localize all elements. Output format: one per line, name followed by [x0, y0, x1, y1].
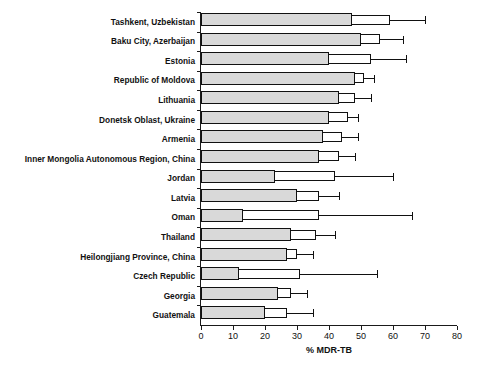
error-bar-cap — [371, 94, 372, 102]
bar — [201, 306, 265, 319]
chart-row: Heilongjiang Province, China — [201, 247, 457, 267]
x-axis-title: % MDR-TB — [201, 345, 457, 355]
category-label: Inner Mongolia Autonomous Region, China — [25, 154, 195, 164]
chart-row: Jordan — [201, 169, 457, 189]
x-axis-tick-label: 60 — [378, 331, 408, 341]
bar — [201, 13, 352, 26]
category-label: Thailand — [161, 232, 195, 242]
x-axis-tick-label: 10 — [218, 331, 248, 341]
category-label: Czech Republic — [133, 271, 195, 281]
error-bar-cap — [358, 114, 359, 122]
x-axis-tick — [361, 326, 362, 330]
bar — [201, 91, 339, 104]
x-axis-tick — [329, 326, 330, 330]
category-label: Latvia — [171, 193, 195, 203]
bar — [201, 189, 297, 202]
error-bar-cap — [374, 75, 375, 83]
chart-row: Tashkent, Uzbekistan — [201, 12, 457, 32]
chart-row: Baku City, Azerbaijan — [201, 32, 457, 52]
x-axis-tick — [457, 326, 458, 330]
bar — [201, 209, 243, 222]
bar — [201, 33, 361, 46]
error-bar-cap — [406, 55, 407, 63]
chart-row: Republic of Moldova — [201, 71, 457, 91]
error-bar-cap — [313, 309, 314, 317]
chart-row: Guatemala — [201, 305, 457, 325]
bar — [201, 150, 319, 163]
category-label: Jordan — [167, 173, 195, 183]
category-label: Armenia — [162, 134, 195, 144]
bar — [201, 130, 323, 143]
error-bar-cap — [313, 251, 314, 259]
chart-row: Latvia — [201, 188, 457, 208]
bar — [201, 287, 278, 300]
x-axis-tick-label: 50 — [346, 331, 376, 341]
chart-row: Donetsk Oblast, Ukraine — [201, 110, 457, 130]
error-bar-cap — [358, 133, 359, 141]
bar — [201, 248, 287, 261]
x-axis-tick — [297, 326, 298, 330]
category-label: Estonia — [165, 56, 195, 66]
error-bar-cap — [393, 173, 394, 181]
x-axis-tick — [393, 326, 394, 330]
chart-row: Oman — [201, 208, 457, 228]
chart-row: Armenia — [201, 129, 457, 149]
category-label: Georgia — [164, 291, 195, 301]
x-axis-tick-label: 20 — [250, 331, 280, 341]
error-bar-cap — [412, 212, 413, 220]
category-label: Republic of Moldova — [114, 75, 195, 85]
x-axis-tick-label: 40 — [314, 331, 344, 341]
chart-row: Inner Mongolia Autonomous Region, China — [201, 149, 457, 169]
x-axis-tick — [425, 326, 426, 330]
category-label: Donetsk Oblast, Ukraine — [99, 115, 195, 125]
x-axis-tick — [265, 326, 266, 330]
chart-page: Tashkent, UzbekistanBaku City, Azerbaija… — [0, 0, 483, 366]
bar — [201, 72, 355, 85]
chart-row: Lithuania — [201, 90, 457, 110]
x-axis-tick — [201, 326, 202, 330]
category-label: Lithuania — [158, 95, 195, 105]
error-bar-cap — [339, 192, 340, 200]
category-label: Tashkent, Uzbekistan — [111, 17, 195, 27]
x-axis-tick-label: 30 — [282, 331, 312, 341]
chart-row: Thailand — [201, 227, 457, 247]
error-bar-cap — [425, 16, 426, 24]
error-bar-cap — [377, 270, 378, 278]
x-axis-tick-label: 70 — [410, 331, 440, 341]
x-axis-tick-label: 80 — [442, 331, 472, 341]
bar — [201, 228, 291, 241]
category-label: Heilongjiang Province, China — [80, 252, 195, 262]
error-bar-cap — [403, 36, 404, 44]
chart-row: Czech Republic — [201, 266, 457, 286]
error-bar-cap — [335, 231, 336, 239]
bar — [201, 267, 239, 280]
category-label: Baku City, Azerbaijan — [111, 36, 195, 46]
x-axis-tick — [233, 326, 234, 330]
bar — [201, 52, 329, 65]
chart-row: Estonia — [201, 51, 457, 71]
x-axis-tick-label: 0 — [186, 331, 216, 341]
bar — [201, 170, 275, 183]
plot-area: Tashkent, UzbekistanBaku City, Azerbaija… — [201, 12, 457, 325]
error-bar-cap — [307, 290, 308, 298]
category-label: Oman — [171, 212, 195, 222]
chart-row: Georgia — [201, 286, 457, 306]
error-bar-cap — [355, 153, 356, 161]
category-label: Guatemala — [153, 310, 195, 320]
bar — [201, 111, 329, 124]
